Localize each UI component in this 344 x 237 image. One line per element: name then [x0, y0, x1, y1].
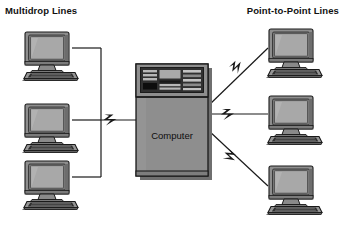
computer-terminal-icon: [22, 104, 78, 153]
panel-indicator: [183, 70, 201, 73]
panel-display: [160, 70, 181, 79]
central-computer-label: Computer: [151, 130, 193, 141]
point-to-point-title: Point-to-Point Lines: [247, 5, 339, 16]
panel-indicator: [160, 88, 181, 90]
panel-indicator: [143, 78, 157, 80]
panel-indicator: [183, 79, 201, 82]
computer-terminal-icon: [266, 96, 322, 145]
computer-terminal-icon: [266, 166, 322, 215]
p2p-line-1: [208, 48, 268, 106]
diagram-canvas: Computer Multidrop Lines Point-to-Point …: [0, 0, 344, 237]
p2p-line-3: [208, 130, 268, 186]
panel-display: [143, 83, 157, 90]
panel-indicator: [143, 74, 157, 76]
panel-indicator: [183, 75, 201, 78]
panel-indicator: [183, 84, 201, 87]
computer-terminal-icon: [22, 32, 78, 81]
terminal-multidrop-2[interactable]: [22, 104, 78, 153]
central-computer-node[interactable]: Computer: [136, 64, 212, 180]
multidrop-title: Multidrop Lines: [5, 5, 77, 16]
panel-indicator: [160, 84, 181, 86]
lightning-bolt-icon: [221, 109, 234, 120]
multidrop-link-group: [72, 48, 136, 177]
panel-indicator: [160, 81, 181, 83]
terminal-multidrop-3[interactable]: [22, 161, 78, 210]
terminal-p2p-2[interactable]: [266, 96, 322, 145]
computer-terminal-icon: [266, 29, 322, 78]
computer-terminal-icon: [22, 161, 78, 210]
mainframe-plinth: [136, 171, 208, 176]
terminal-multidrop-1[interactable]: [22, 32, 78, 81]
network-topology-diagram: Computer Multidrop Lines Point-to-Point …: [0, 0, 344, 237]
panel-indicator: [183, 88, 201, 90]
lightning-bolt-icon: [221, 148, 238, 165]
panel-indicator: [143, 70, 157, 72]
terminal-p2p-3[interactable]: [266, 166, 322, 215]
point-to-point-link-group: [208, 48, 268, 186]
terminal-p2p-1[interactable]: [266, 29, 322, 78]
lightning-bolt-icon: [104, 115, 117, 126]
